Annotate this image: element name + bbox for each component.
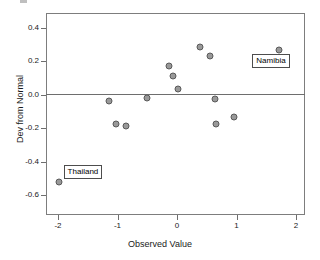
x-axis-tick-label: 1 [234,222,238,230]
point-annotation-label[interactable]: Namibia [252,54,289,68]
x-axis-tick-label: -1 [114,222,121,230]
data-point[interactable] [196,43,203,50]
y-axis-tick-mark [41,195,46,196]
x-axis-tick-label: 2 [294,222,298,230]
y-axis-tick-mark [41,95,46,96]
data-point[interactable] [213,121,220,128]
data-point[interactable] [230,113,237,120]
data-point[interactable] [165,63,172,70]
data-point[interactable] [122,123,129,130]
y-axis-tick-mark [41,162,46,163]
data-point[interactable] [105,98,112,105]
scatter-plot: 0.40.20.0-0.2-0.4-0.6 -2-1012 NamibiaTha… [0,0,320,260]
x-axis-tick-mark [58,215,59,220]
data-point[interactable] [175,85,182,92]
data-point[interactable] [55,179,62,186]
data-point[interactable] [113,120,120,127]
y-axis-tick-mark [41,28,46,29]
zero-reference-line [46,94,305,95]
y-axis-tick-mark [41,128,46,129]
y-axis-tick-label: 0.4 [28,24,39,32]
y-axis-tick-label: -0.2 [25,124,39,132]
x-axis-tick-mark [296,215,297,220]
x-axis-tick-mark [118,215,119,220]
x-axis-tick-label: 0 [175,222,179,230]
clipped-title-artifact [20,0,27,3]
x-axis-tick-label: -2 [54,222,61,230]
y-axis-tick-label: 0.2 [28,57,39,65]
data-point[interactable] [212,96,219,103]
x-axis-tick-mark [177,215,178,220]
y-axis-tick-label: 0.0 [28,91,39,99]
y-axis-tick-label: -0.6 [25,191,39,199]
y-axis-tick-mark [41,61,46,62]
data-point[interactable] [170,73,177,80]
plot-area-frame [46,13,305,215]
data-point[interactable] [207,53,214,60]
data-point[interactable] [143,95,150,102]
y-axis-tick-label: -0.4 [25,158,39,166]
point-annotation-label[interactable]: Thailand [64,165,103,179]
data-point[interactable] [276,47,283,54]
y-axis-title: Dev from Normal [15,39,25,179]
x-axis-tick-mark [237,215,238,220]
x-axis-title: Observed Value [0,239,320,249]
